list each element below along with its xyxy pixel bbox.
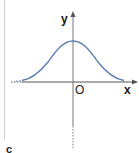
y-axis-arrow-icon [71, 11, 76, 17]
y-axis-label: y [61, 13, 68, 25]
x-axis-label: x [124, 84, 131, 96]
graph-canvas [0, 0, 139, 153]
origin-label: O [75, 84, 84, 96]
x-axis-arrow-icon [132, 80, 138, 85]
y-axis [71, 11, 76, 148]
bell-curve-left-tail [16, 81, 22, 82]
panel-label: c [6, 144, 12, 153]
